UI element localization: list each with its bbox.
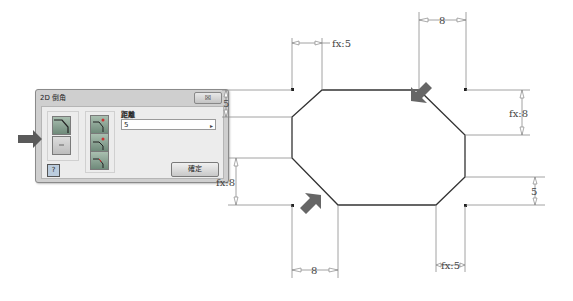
- dim-left-upper: 5: [223, 98, 229, 109]
- corner-points: [291, 88, 467, 207]
- chamfered-octagon: [292, 90, 465, 205]
- dim-top-left: fx:5: [332, 38, 351, 49]
- dim-bottom-right: fx:5: [441, 260, 460, 271]
- dim-left-lower: fx:8: [216, 177, 235, 188]
- dim-bottom-left: 8: [311, 265, 317, 276]
- chamfer-arrow-bottom-left-icon: [300, 193, 321, 214]
- dim-right-upper: fx:8: [509, 108, 528, 119]
- dim-right-lower: 5: [531, 186, 537, 197]
- dimension-lines: [222, 12, 545, 278]
- pointer-arrow-icon: [18, 130, 42, 148]
- dimension-arrowheads: [224, 18, 537, 272]
- chamfer-drawing: fx:5 8 fx:8 5 5 fx:8 8 fx:5: [0, 0, 573, 301]
- dim-top-right: 8: [439, 15, 445, 26]
